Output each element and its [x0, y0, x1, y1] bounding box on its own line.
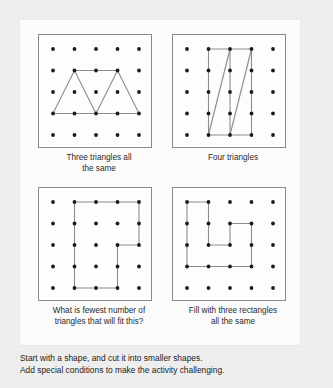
- peg-dot: [51, 112, 55, 116]
- page-background: Three triangles allthe same Four triangl…: [0, 0, 333, 388]
- caption-three-rectangles: Fill with three rectanglesall the same: [172, 306, 294, 327]
- peg-dot: [94, 265, 98, 269]
- peg-dot: [73, 133, 77, 137]
- geoboard-three-rectangles[interactable]: [172, 187, 286, 301]
- peg-dot: [137, 222, 141, 226]
- peg-dot: [137, 200, 141, 204]
- peg-dot: [51, 69, 55, 73]
- peg-dot: [51, 90, 55, 94]
- peg-dot: [116, 112, 120, 116]
- geoboard-four-triangles[interactable]: [172, 34, 286, 148]
- peg-dot: [73, 222, 77, 226]
- peg-dot: [271, 265, 275, 269]
- peg-dot: [228, 112, 232, 116]
- peg-dot: [94, 47, 98, 51]
- peg-dot: [51, 243, 55, 247]
- peg-dot: [137, 112, 141, 116]
- peg-dot: [137, 265, 141, 269]
- peg-dot: [250, 200, 254, 204]
- peg-dot: [271, 90, 275, 94]
- peg-dot: [207, 69, 211, 73]
- peg-dot: [94, 243, 98, 247]
- peg-dot: [116, 90, 120, 94]
- caption-four-triangles: Four triangles: [172, 153, 294, 164]
- peg-dot: [271, 133, 275, 137]
- peg-dot: [94, 286, 98, 290]
- peg-dot: [185, 112, 189, 116]
- peg-dot: [207, 265, 211, 269]
- peg-dot: [185, 133, 189, 137]
- peg-dot: [73, 265, 77, 269]
- geoboard-fewest-triangles[interactable]: [38, 187, 152, 301]
- geoboard-grid-container: Three triangles allthe same Four triangl…: [20, 20, 300, 345]
- geoboard-fewest-triangles-canvas: [39, 188, 153, 302]
- peg-dot: [94, 90, 98, 94]
- peg-dot: [116, 47, 120, 51]
- peg-dot: [185, 265, 189, 269]
- peg-dot: [228, 69, 232, 73]
- peg-dot: [73, 200, 77, 204]
- peg-dot: [271, 222, 275, 226]
- peg-dot: [207, 222, 211, 226]
- geoboard-four-triangles-canvas: [173, 35, 287, 149]
- peg-dot: [185, 47, 189, 51]
- peg-dot: [116, 200, 120, 204]
- geoboard-cell-three-rectangles: Fill with three rectanglesall the same: [172, 187, 302, 327]
- peg-dot: [228, 133, 232, 137]
- peg-dot: [207, 133, 211, 137]
- peg-dot: [207, 200, 211, 204]
- peg-dot: [228, 243, 232, 247]
- peg-dot: [137, 90, 141, 94]
- footer-line-2: Add special conditions to make the activ…: [20, 364, 320, 376]
- peg-dot: [51, 200, 55, 204]
- peg-dot: [271, 286, 275, 290]
- peg-dot: [73, 69, 77, 73]
- peg-dot: [271, 112, 275, 116]
- peg-dot: [94, 69, 98, 73]
- peg-dot: [207, 47, 211, 51]
- peg-dot: [73, 112, 77, 116]
- peg-dot: [73, 243, 77, 247]
- peg-dot: [207, 243, 211, 247]
- geoboard-cell-fewest-triangles: What is fewest number oftriangles that w…: [38, 187, 168, 327]
- shape-segment: [187, 202, 252, 267]
- peg-dot: [137, 47, 141, 51]
- geoboard-three-rectangles-canvas: [173, 188, 287, 302]
- peg-dot: [116, 69, 120, 73]
- peg-dot: [94, 200, 98, 204]
- shape-segment: [230, 49, 252, 135]
- peg-dot: [207, 286, 211, 290]
- peg-dot: [185, 243, 189, 247]
- peg-dot: [137, 133, 141, 137]
- peg-dot: [94, 222, 98, 226]
- peg-dot: [271, 200, 275, 204]
- peg-dot: [228, 265, 232, 269]
- peg-dot: [116, 222, 120, 226]
- peg-dot: [250, 47, 254, 51]
- peg-dot: [51, 133, 55, 137]
- footer-line-1: Start with a shape, and cut it into smal…: [20, 352, 320, 364]
- peg-dot: [228, 200, 232, 204]
- peg-dot: [271, 69, 275, 73]
- peg-dot: [207, 112, 211, 116]
- peg-dot: [228, 47, 232, 51]
- peg-dot: [228, 286, 232, 290]
- peg-dot: [250, 112, 254, 116]
- peg-dot: [250, 265, 254, 269]
- peg-dot: [250, 286, 254, 290]
- worksheet-card: Three triangles allthe same Four triangl…: [20, 20, 300, 345]
- caption-three-triangles: Three triangles allthe same: [38, 153, 160, 174]
- peg-dot: [185, 69, 189, 73]
- peg-dot: [271, 47, 275, 51]
- peg-dot: [51, 265, 55, 269]
- geoboard-three-triangles[interactable]: [38, 34, 152, 148]
- peg-dot: [116, 133, 120, 137]
- peg-dot: [116, 243, 120, 247]
- peg-dot: [51, 286, 55, 290]
- peg-dot: [94, 133, 98, 137]
- peg-dot: [73, 90, 77, 94]
- peg-dot: [228, 222, 232, 226]
- peg-dot: [250, 69, 254, 73]
- shape-segment: [75, 202, 140, 288]
- peg-dot: [185, 90, 189, 94]
